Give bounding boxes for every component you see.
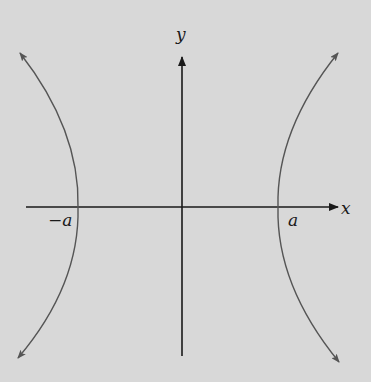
y-axis-label: y	[175, 24, 186, 44]
x-axis-label: x	[341, 198, 351, 218]
hyperbola-diagram: x y −a a	[0, 0, 371, 382]
left-vertex-label: −a	[48, 210, 72, 230]
left-branch	[18, 53, 78, 358]
right-vertex-label: a	[288, 210, 298, 230]
